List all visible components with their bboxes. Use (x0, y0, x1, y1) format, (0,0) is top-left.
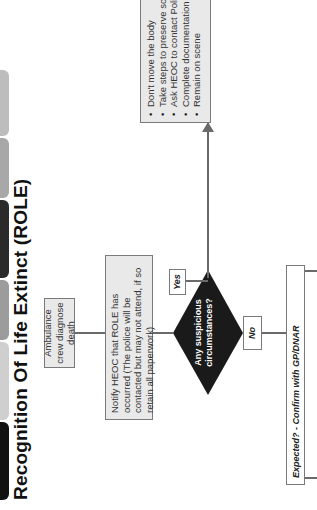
connector-expected-left (305, 477, 317, 479)
yes-label-box: Yes (169, 269, 186, 295)
section-tab-3[interactable] (0, 280, 9, 340)
rotated-page: Recognition Of Life Extinct (ROLE) Ambul… (0, 0, 317, 510)
connector-notify-decision (153, 332, 173, 334)
decision-text: Any suspicious circumstances? (193, 295, 215, 370)
section-tab-4[interactable] (0, 200, 9, 278)
notify-text: Notify HEOC that ROLE has occurred (The … (109, 268, 155, 413)
no-label-box: No (243, 316, 262, 350)
action-item: Ask HEOC to contact Police (168, 0, 180, 116)
notify-box: Notify HEOC that ROLE has occurred (The … (105, 255, 153, 420)
section-tab-6[interactable] (0, 70, 9, 136)
section-tab-2[interactable] (0, 342, 9, 420)
action-item: Don't move the body (145, 0, 157, 116)
expected-box: Expected? - Confirm with GP/DNAR (286, 265, 305, 485)
action-item: Take steps to preserve scene (157, 0, 169, 116)
yes-label: Yes (172, 274, 184, 290)
section-tab-1[interactable] (0, 422, 9, 500)
connector-yes-vertical (186, 280, 208, 282)
connector-start-notify (75, 332, 105, 334)
connector-expected-right (305, 270, 317, 272)
expected-text: Expected? - Confirm with GP/DNAR (291, 325, 301, 478)
start-box: Ambulance crew diagnose death (44, 298, 75, 368)
page-title: Recognition Of Life Extinct (ROLE) (10, 179, 32, 500)
suspicious-actions-list: Don't move the body Take steps to preser… (145, 0, 203, 122)
action-item: Remain on scene (191, 0, 203, 116)
suspicious-actions-box: Don't move the body Take steps to preser… (140, 0, 211, 123)
arrow-head-icon (202, 122, 214, 132)
no-label: No (247, 327, 259, 339)
section-tab-5[interactable] (0, 138, 9, 198)
action-item: Complete documentation (180, 0, 192, 116)
start-text: Ambulance crew diagnose death (42, 299, 77, 367)
